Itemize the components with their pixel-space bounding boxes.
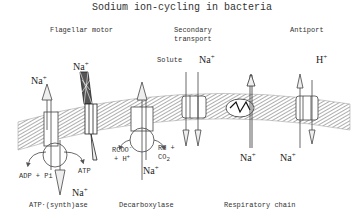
secondary-transporter-protein: [182, 72, 206, 146]
antiporter-protein: [296, 74, 318, 148]
respiratory-chain-protein: [226, 74, 255, 148]
membrane-diagram: [0, 0, 364, 219]
